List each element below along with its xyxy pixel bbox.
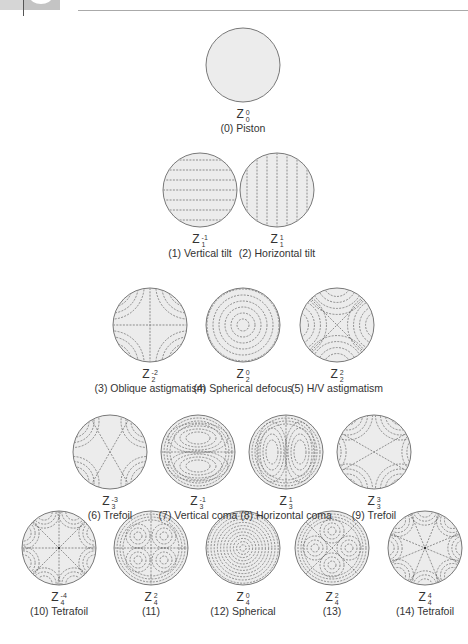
azimuthal-index: 3 [377,496,381,503]
zernike-symbol: Z02 [213,367,273,382]
zernike-mode-2 [240,153,314,227]
zernike-mode-0 [206,28,280,102]
zernike-symbol: Z-13 [168,494,228,509]
mode-caption: (9) Trefoil [299,509,449,521]
zernike-symbol: Z13 [256,494,316,509]
zernike-mode-7 [161,415,235,489]
mode-caption: (14) Tetrafoil [350,605,468,617]
zernike-mode-8 [249,415,323,489]
zernike-symbol: Z24 [302,590,362,605]
zernike-mode-1 [163,153,237,227]
trefoil-v-pattern-icon [47,395,173,508]
azimuthal-index: -1 [200,496,206,503]
zernike-mode-12 [206,511,280,585]
zernike-mode-4 [206,288,280,362]
zernike-symbol-letter: Z [144,590,151,604]
zernike-symbol-letter: Z [192,232,199,246]
azimuthal-index: 2 [335,592,339,599]
azimuthal-index: 0 [246,109,250,116]
zernike-mode-11 [114,511,188,585]
azimuthal-index: 0 [246,592,250,599]
zernike-symbol: Z-22 [120,367,180,382]
zernike-symbol: Z-33 [80,494,140,509]
zernike-diagram [0,0,468,644]
azimuthal-index: 0 [246,369,250,376]
mode-caption: (0) Piston [168,122,318,134]
azimuthal-index: 2 [340,369,344,376]
zernike-symbol: Z11 [247,232,307,247]
zernike-symbol-letter: Z [190,494,197,508]
zernike-symbol-letter: Z [270,232,277,246]
azimuthal-index: 1 [280,234,284,241]
zernike-symbol-letter: Z [236,590,243,604]
azimuthal-index: -1 [202,234,208,241]
zernike-symbol-letter: Z [102,494,109,508]
zernike-symbol: Z-44 [29,590,89,605]
zernike-symbol-letter: Z [367,494,374,508]
zernike-symbol: Z44 [395,590,455,605]
zernike-symbol: Z22 [307,367,367,382]
azimuthal-index: -4 [61,592,67,599]
zernike-symbol-letter: Z [236,107,243,121]
zernike-symbol-letter: Z [325,590,332,604]
mode-caption: (2) Horizontal tilt [202,247,352,259]
zernike-symbol-letter: Z [279,494,286,508]
mode-caption: (5) H/V astigmatism [262,382,412,394]
zernike-symbol-letter: Z [51,590,58,604]
azimuthal-index: 4 [428,592,432,599]
zernike-symbol-letter: Z [330,367,337,381]
zernike-symbol: Z04 [213,590,273,605]
zernike-symbol-letter: Z [142,367,149,381]
zernike-symbol: Z33 [344,494,404,509]
azimuthal-index: -3 [112,496,118,503]
zernike-symbol: Z-11 [170,232,230,247]
zernike-mode-6 [47,395,173,508]
zernike-symbol: Z00 [213,107,273,122]
azimuthal-index: -2 [152,369,158,376]
zernike-mode-13 [295,511,369,585]
zernike-symbol: Z24 [121,590,181,605]
azimuthal-index: 2 [154,592,158,599]
zernike-symbol-letter: Z [236,367,243,381]
azimuthal-index: 1 [289,496,293,503]
zernike-symbol-letter: Z [418,590,425,604]
